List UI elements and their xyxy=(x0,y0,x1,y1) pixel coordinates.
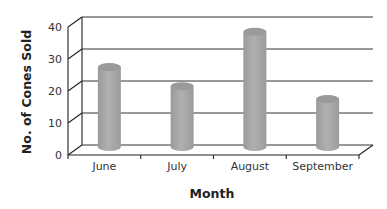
bar-july xyxy=(171,82,194,151)
y-axis-ticks: 010203040 xyxy=(48,21,62,162)
x-category-label: September xyxy=(292,160,353,173)
x-axis-title: Month xyxy=(190,186,235,201)
bar-june xyxy=(98,63,121,151)
bar-chart: 010203040 JuneJulyAugustSeptember No. of… xyxy=(0,0,387,209)
chart-canvas: 010203040 JuneJulyAugustSeptember No. of… xyxy=(0,0,387,209)
y-tick-label: 10 xyxy=(48,117,62,130)
x-category-label: August xyxy=(231,160,270,173)
bars xyxy=(98,28,339,151)
bar-september xyxy=(316,95,339,151)
y-tick-label: 0 xyxy=(55,149,62,162)
y-tick-label: 40 xyxy=(48,21,62,34)
y-tick-label: 20 xyxy=(48,85,62,98)
x-axis-categories: JuneJulyAugustSeptember xyxy=(91,160,353,173)
y-tick-label: 30 xyxy=(48,53,62,66)
x-category-label: July xyxy=(166,160,187,173)
bar-august xyxy=(243,28,266,151)
x-category-label: June xyxy=(91,160,116,173)
y-axis-title: No. of Cones Sold xyxy=(19,30,34,154)
